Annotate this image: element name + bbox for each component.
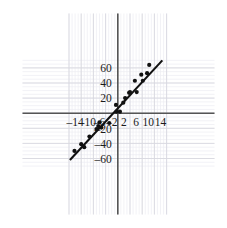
y-tick-label: –40 bbox=[94, 138, 113, 150]
x-tick-label: 10 bbox=[143, 116, 155, 128]
data-point bbox=[82, 145, 86, 149]
data-point bbox=[99, 125, 103, 129]
scatter-plot-figure: –14–10–6–2261014604020–20–40–60 bbox=[0, 0, 227, 228]
data-point bbox=[135, 90, 139, 94]
plot-canvas: –14–10–6–2261014604020–20–40–60 bbox=[0, 0, 227, 228]
data-point bbox=[147, 63, 151, 67]
data-point bbox=[145, 71, 149, 75]
y-tick-label: 60 bbox=[100, 62, 112, 74]
data-point bbox=[72, 149, 76, 153]
data-point bbox=[133, 79, 137, 83]
y-tick-label: –60 bbox=[94, 153, 113, 165]
y-tick-label: 40 bbox=[100, 77, 112, 89]
data-point bbox=[139, 73, 143, 77]
x-tick-labels: –14–10–6–2261014 bbox=[65, 116, 166, 128]
data-point bbox=[114, 103, 118, 107]
data-point bbox=[118, 110, 122, 114]
data-point bbox=[128, 90, 132, 94]
data-point bbox=[141, 79, 145, 83]
data-point bbox=[107, 121, 111, 125]
data-point bbox=[79, 142, 83, 146]
axes bbox=[23, 14, 215, 215]
x-tick-label: 6 bbox=[133, 116, 139, 128]
data-point bbox=[121, 101, 125, 105]
data-point bbox=[97, 120, 101, 124]
data-point bbox=[87, 135, 91, 139]
y-tick-label: 20 bbox=[100, 92, 112, 104]
x-tick-label: 2 bbox=[121, 116, 127, 128]
x-tick-label: 14 bbox=[155, 116, 167, 128]
data-point bbox=[123, 96, 127, 100]
